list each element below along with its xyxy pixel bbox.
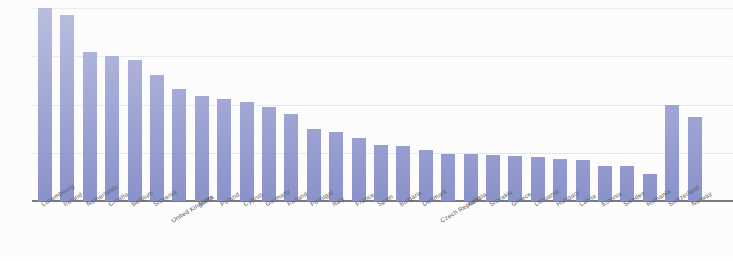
bar <box>396 146 410 201</box>
bar <box>195 96 209 201</box>
bar <box>38 8 52 201</box>
bar <box>262 107 276 201</box>
bar <box>105 56 119 201</box>
bar-chart: 0100200300400 LuxembourgIrelandNetherlan… <box>0 0 733 261</box>
bar <box>60 15 74 201</box>
bar <box>172 89 186 201</box>
plot-area: 0100200300400 <box>32 8 733 201</box>
bar <box>217 99 231 201</box>
x-axis-category-labels: LuxembourgIrelandNetherlandsCroatiaBelgi… <box>32 203 733 261</box>
bar <box>150 75 164 201</box>
bar <box>240 102 254 201</box>
bar <box>374 145 388 201</box>
bar <box>352 138 366 201</box>
bar <box>128 60 142 201</box>
bar <box>83 52 97 201</box>
bar <box>307 129 321 201</box>
bar-series <box>32 8 733 201</box>
